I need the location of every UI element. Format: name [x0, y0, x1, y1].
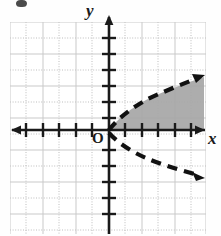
x-axis-label: x	[208, 130, 217, 147]
coordinate-plot	[0, 0, 221, 236]
origin-label: O	[92, 131, 104, 146]
y-axis-arrow-up	[105, 15, 114, 25]
graph-figure: y x O	[0, 0, 221, 236]
y-axis-label: y	[86, 2, 94, 19]
